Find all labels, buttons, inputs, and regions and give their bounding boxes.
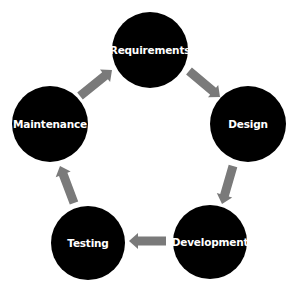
arrow-testing-to-maintenance-icon: [56, 166, 78, 205]
node-maintenance: Maintenance: [12, 86, 88, 162]
node-requirements: Requirements: [112, 12, 188, 88]
arrow-development-to-testing-icon: [129, 233, 166, 249]
node-label-design: Design: [228, 118, 267, 130]
node-design: Design: [210, 86, 286, 162]
arrow-design-to-development-icon: [217, 165, 238, 204]
node-label-testing: Testing: [67, 237, 108, 249]
node-label-maintenance: Maintenance: [13, 118, 87, 130]
arrow-requirements-to-design-icon: [186, 68, 220, 98]
node-label-requirements: Requirements: [110, 44, 191, 56]
node-testing: Testing: [51, 206, 125, 280]
node-label-development: Development: [172, 236, 249, 248]
arrow-maintenance-to-requirements-icon: [77, 70, 112, 100]
node-development: Development: [173, 205, 247, 279]
sdlc-cycle-diagram: Requirements Design Development Testing …: [0, 0, 297, 293]
